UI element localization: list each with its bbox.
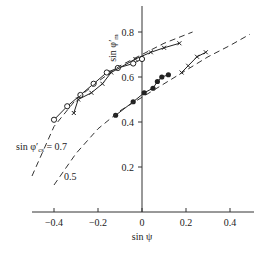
y-tick-label: 0.6 xyxy=(122,72,135,83)
x-tick-label: 0 xyxy=(140,217,145,228)
annotation-07: sin φ′cs = 0.7 xyxy=(16,141,67,154)
open-circle-marker xyxy=(65,104,70,109)
cross-marker xyxy=(195,55,199,59)
cross-marker xyxy=(89,91,93,95)
filled-circle-marker xyxy=(166,72,171,77)
cross-marker xyxy=(100,82,104,86)
y-tick-label: 0.8 xyxy=(122,27,135,38)
y-axis-label: sin φ′m xyxy=(107,34,120,62)
x-tick-label: 0.2 xyxy=(180,217,193,228)
annotation-05: 0.5 xyxy=(64,171,77,182)
x-axis-label: sin ψ xyxy=(132,231,153,242)
series-layer xyxy=(32,32,250,185)
filled-circle-marker xyxy=(150,86,155,91)
x-tick-label: −0.4 xyxy=(45,217,63,228)
y-tick-label: 0.4 xyxy=(122,117,135,128)
x-tick-label: 0.4 xyxy=(224,217,237,228)
cross-marker xyxy=(204,50,208,54)
reference-curve xyxy=(54,34,250,185)
filled-circle-marker xyxy=(159,74,164,79)
filled-circle-marker xyxy=(155,79,160,84)
y-tick-label: 0.2 xyxy=(122,162,135,173)
x-tick-label: −0.2 xyxy=(89,217,107,228)
chart: −0.4−0.200.20.4 0.20.40.60.8 sin ψ sin φ… xyxy=(0,0,268,256)
x-ticks: −0.4−0.200.20.4 xyxy=(45,208,236,228)
data-line xyxy=(182,52,206,72)
open-circle-marker xyxy=(51,117,56,122)
cross-marker xyxy=(186,64,190,68)
